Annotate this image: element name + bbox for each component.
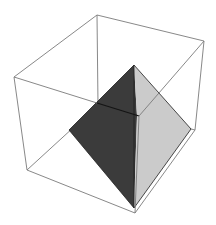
edge-top-right-to-bottom-right <box>195 41 204 130</box>
edge-top-back-to-top-right <box>97 15 204 41</box>
edge-top-back-to-bottom-back <box>97 15 98 105</box>
pyramid-light-face <box>134 65 191 208</box>
pyramid-dark-face <box>69 65 137 208</box>
edge-top-left-to-top-back <box>14 15 97 77</box>
edge-top-left-to-bottom-left <box>14 77 27 170</box>
box-pyramid-figure <box>0 0 216 225</box>
edge-top-left-to-top-front <box>14 77 97 103</box>
edge-top-right-to-top-front <box>139 41 204 116</box>
diagram-canvas <box>0 0 216 225</box>
pyramid <box>69 65 191 208</box>
